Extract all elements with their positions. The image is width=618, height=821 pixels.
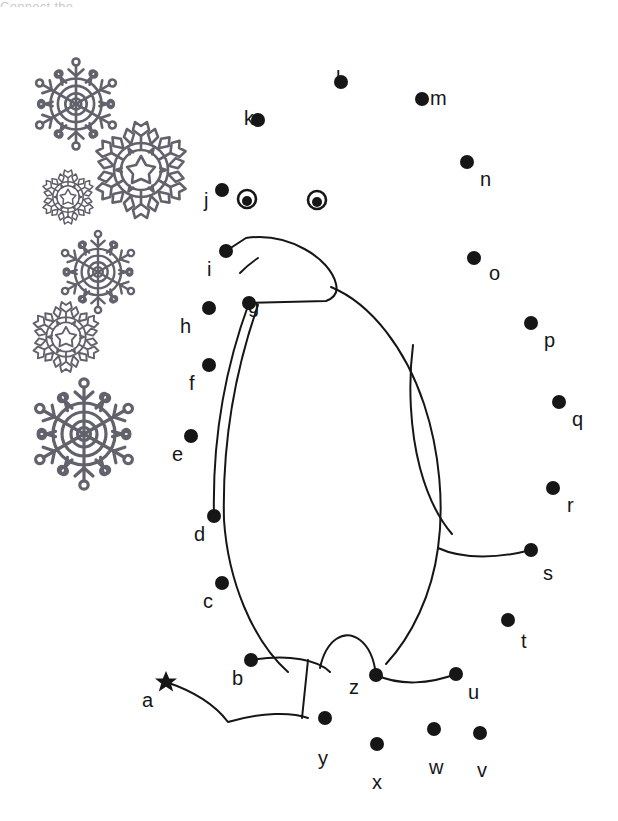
puzzle-dot-label-q: q [572,409,583,429]
puzzle-dot-u[interactable] [449,667,463,681]
worksheet-page: Connect the [0,0,618,821]
puzzle-dot-label-n: n [480,169,491,189]
puzzle-dot-i[interactable] [219,244,233,258]
puzzle-dot-label-a: a [142,690,153,710]
puzzle-dot-label-z: z [349,677,359,697]
penguin-path-tail-to-s [438,548,531,557]
puzzle-dot-label-c: c [203,591,213,611]
penguin-path-foot-right-u [376,674,456,682]
penguin-path-beak-line [240,258,258,273]
puzzle-dot-label-h: h [180,316,191,336]
puzzle-dot-v[interactable] [473,726,487,740]
snowflake-star-mid-icon [29,302,102,372]
penguin-path-body-left-outer [224,305,288,672]
penguin-line-art [166,237,531,722]
penguin-path-wing [410,345,452,534]
puzzle-dot-o[interactable] [467,251,481,265]
puzzle-dot-r[interactable] [546,481,560,495]
puzzle-dot-t[interactable] [501,613,515,627]
puzzle-start-star-a[interactable] [155,671,177,691]
puzzle-dot-c[interactable] [215,576,229,590]
puzzle-dot-label-t: t [521,631,527,651]
puzzle-dot-d[interactable] [207,509,221,523]
puzzle-dot-label-l: l [336,68,340,88]
puzzle-dot-label-o: o [489,263,500,283]
puzzle-dot-label-w: w [429,757,443,777]
puzzle-dot-label-s: s [543,563,553,583]
puzzle-dot-n[interactable] [460,155,474,169]
puzzle-dot-f[interactable] [202,358,216,372]
puzzle-dot-label-d: d [194,524,205,544]
puzzle-dot-label-v: v [477,760,487,780]
puzzle-dot-h[interactable] [202,301,216,315]
puzzle-dot-q[interactable] [552,395,566,409]
penguin-path-foot-left-b [251,658,330,672]
puzzle-dot-label-p: p [544,330,555,350]
puzzle-dot-x[interactable] [370,737,384,751]
penguin-path-leg-line [302,660,308,718]
snowflake-ring-large-top-icon [26,59,126,150]
snowflake-ring-mid-icon [53,231,143,313]
puzzle-dot-label-m: m [430,88,447,108]
puzzle-dot-s[interactable] [524,543,538,557]
snowflake-ring-large-bottom-icon [23,379,144,489]
penguin-eyes [238,190,326,209]
puzzle-dot-label-y: y [318,748,328,768]
puzzle-dot-label-e: e [172,444,183,464]
puzzle-artwork [0,0,618,821]
puzzle-dot-label-r: r [567,495,574,515]
puzzle-dot-label-g: g [248,296,259,316]
puzzle-dot-m[interactable] [415,92,429,106]
puzzle-dot-p[interactable] [524,316,538,330]
puzzle-dots [155,75,566,751]
puzzle-dot-e[interactable] [184,429,198,443]
puzzle-dot-w[interactable] [427,722,441,736]
penguin-path-foot-arc-z [320,635,376,675]
puzzle-dot-label-j: j [204,190,208,210]
puzzle-dot-label-k: k [244,108,254,128]
puzzle-dot-b[interactable] [244,653,258,667]
snowflake-star-dense-upper-icon [91,122,191,218]
puzzle-dot-j[interactable] [215,183,229,197]
snowflake-star-small-icon [40,170,96,224]
puzzle-dot-z[interactable] [369,668,383,682]
puzzle-dot-y[interactable] [318,711,332,725]
snowflake-decorations [23,59,191,490]
left-eye [238,190,256,208]
puzzle-dot-label-u: u [468,682,479,702]
puzzle-dot-label-b: b [232,668,243,688]
puzzle-dot-label-i: i [207,259,211,279]
puzzle-dot-label-x: x [372,772,382,792]
right-eye [308,191,326,209]
penguin-path-back-right [331,287,441,664]
puzzle-dot-label-f: f [189,373,195,393]
